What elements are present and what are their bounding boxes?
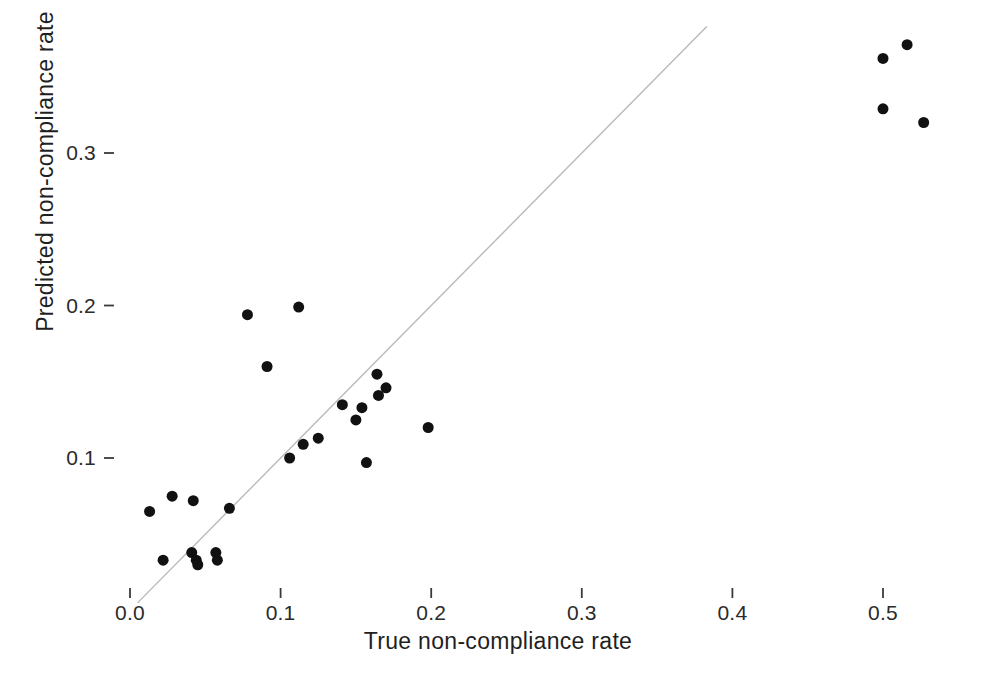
data-point [902,39,913,50]
x-tick-label: 0.2 [416,601,446,625]
data-point [293,302,304,313]
data-point [313,433,324,444]
data-point [361,457,372,468]
panel-background [104,0,996,592]
data-point [212,555,223,566]
x-tick-label: 0.4 [717,601,747,625]
data-point [192,559,203,570]
data-point [878,53,889,64]
data-point [381,382,392,393]
x-tick-label: 0.5 [868,601,898,625]
data-point [284,453,295,464]
data-point [167,491,178,502]
data-point [337,399,348,410]
data-point [144,506,155,517]
data-point [371,369,382,380]
plot-canvas [0,0,996,683]
scatter-plot-figure: 0.00.10.20.30.40.5 0.10.20.3 True non-co… [0,0,996,683]
data-point [298,439,309,450]
data-point [918,117,929,128]
data-point [224,503,235,514]
data-point [423,422,434,433]
x-tick-label: 0.3 [567,601,597,625]
x-axis-title: True non-compliance rate [0,628,996,655]
x-tick-label: 0.1 [266,601,296,625]
x-tick-label: 0.0 [115,601,145,625]
data-point [356,402,367,413]
data-point [878,103,889,114]
data-point [188,495,199,506]
data-point [158,555,169,566]
data-point [262,361,273,372]
y-axis-title: Predicted non-compliance rate [32,0,59,472]
data-point [350,414,361,425]
data-point [242,309,253,320]
